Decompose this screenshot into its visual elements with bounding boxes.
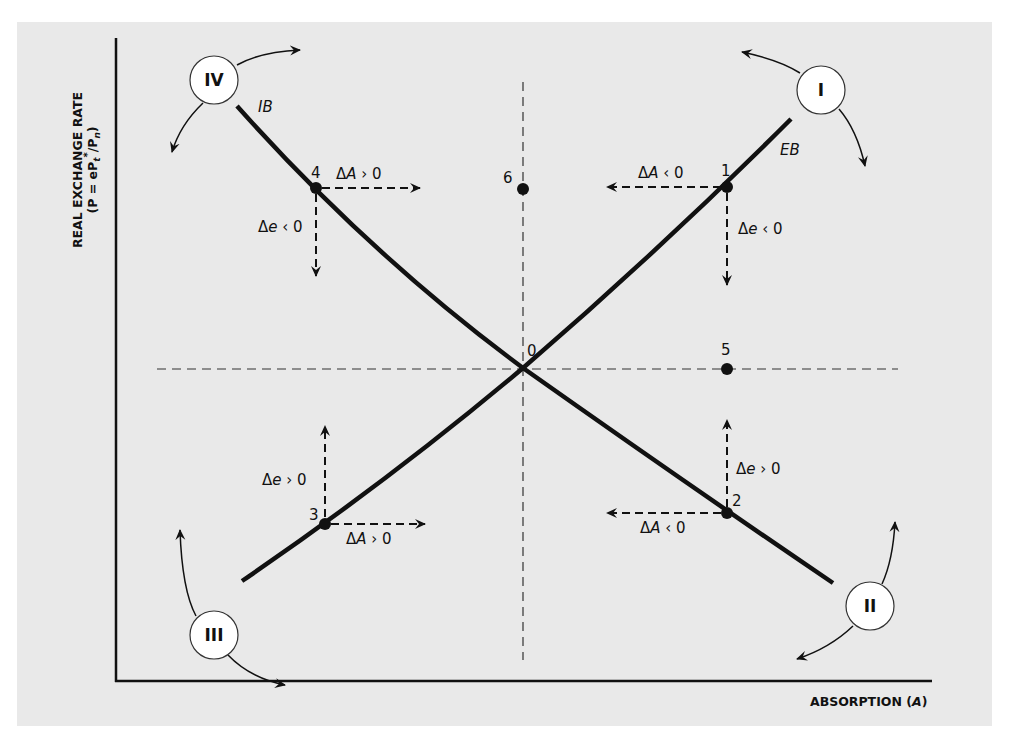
point-4-arrow-2-label: Δe ‹ 0 — [258, 218, 303, 236]
y-axis-title: REAL EXCHANGE RATE (P = ePt*/Pn) — [70, 92, 102, 248]
point-4-label: 4 — [311, 164, 321, 182]
region-iii: III — [180, 530, 285, 685]
point-1-arrow-1-label: ΔA ‹ 0 — [638, 164, 684, 182]
point-1-arrow-2-label: Δe ‹ 0 — [738, 220, 783, 238]
point-3: 3 ΔA › 0 Δe › 0 — [262, 426, 425, 548]
region-ii-label: II — [864, 596, 877, 616]
rotation-arrow-icon — [882, 522, 895, 584]
region-iii-label: III — [205, 625, 224, 645]
region-iv: IV — [172, 50, 300, 152]
point-0-label: 0 — [527, 342, 537, 360]
rotation-arrow-icon — [839, 109, 865, 166]
region-iv-label: IV — [204, 70, 224, 90]
point-1-label: 1 — [721, 162, 731, 180]
region-i-label: I — [818, 80, 824, 100]
rotation-arrow-icon — [180, 530, 196, 616]
point-2: 2 ΔA ‹ 0 Δe › 0 — [607, 420, 781, 537]
x-axis-title: ABSORPTION (A) — [810, 694, 927, 709]
phase-diagram: REAL EXCHANGE RATE (P = ePt*/Pn) ABSORPT… — [0, 0, 1013, 739]
y-axis-title-line2: (P = ePt*/Pn) — [82, 126, 102, 213]
rotation-arrow-icon — [172, 103, 203, 152]
region-ii: II — [797, 522, 895, 659]
point-6: 6 — [503, 169, 529, 195]
point-5: 5 — [721, 341, 733, 375]
point-3-arrow-1-label: ΔA › 0 — [346, 530, 392, 548]
rotation-arrow-icon — [237, 50, 300, 65]
ib-curve-label: IB — [258, 98, 273, 116]
y-axis-title-line1: REAL EXCHANGE RATE — [70, 92, 85, 248]
point-4-arrow-1-label: ΔA › 0 — [336, 165, 382, 183]
eb-curve-label: EB — [780, 141, 800, 159]
point-2-arrow-2-label: Δe › 0 — [736, 460, 781, 478]
point-3-arrow-2-label: Δe › 0 — [262, 471, 307, 489]
rotation-arrow-icon — [797, 626, 853, 659]
point-3-label: 3 — [309, 506, 319, 524]
point-4: 4 ΔA › 0 Δe ‹ 0 — [258, 164, 420, 276]
point-5-label: 5 — [721, 341, 731, 359]
rotation-arrow-icon — [742, 52, 800, 73]
point-6-label: 6 — [503, 169, 513, 187]
point-1: 1 ΔA ‹ 0 Δe ‹ 0 — [607, 162, 783, 285]
point-2-label: 2 — [732, 492, 742, 510]
point-2-arrow-1-label: ΔA ‹ 0 — [640, 519, 686, 537]
